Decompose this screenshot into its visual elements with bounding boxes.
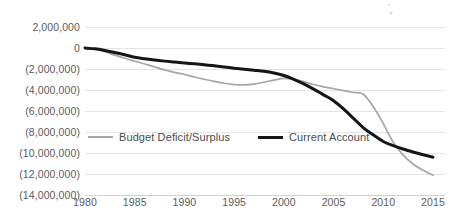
x-axis-tick-label: 2000 [272,196,296,208]
x-axis-tick-label: 2005 [322,196,346,208]
line-chart: 2,000,0000(2,000,000)(4,000,000)(6,000,0… [0,0,450,214]
legend-entry-budget-deficit-surplus: Budget Deficit/Surplus [88,131,230,143]
x-axis-tick-label: 2010 [371,196,395,208]
legend-line-swatch-icon [258,136,283,139]
legend-entry-current-account: Current Account [258,131,369,143]
x-axis-tick-label: 1980 [73,196,97,208]
x-axis-tick-label: 1985 [123,196,147,208]
legend-label: Budget Deficit/Surplus [119,131,230,143]
x-axis-tick-label: 1990 [173,196,197,208]
chart-legend: Budget Deficit/Surplus Current Account [88,131,369,143]
legend-label: Current Account [289,131,369,143]
x-axis-tick-label: 2015 [421,196,445,208]
legend-line-swatch-icon [88,136,113,138]
x-axis-tick-labels: 19801985199019952000200520102015 [0,0,450,214]
x-axis-tick-label: 1995 [222,196,246,208]
